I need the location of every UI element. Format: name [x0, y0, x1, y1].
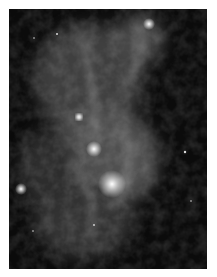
nebula-graphic [9, 9, 207, 269]
texture [9, 9, 207, 269]
nebula-photo [9, 9, 207, 269]
